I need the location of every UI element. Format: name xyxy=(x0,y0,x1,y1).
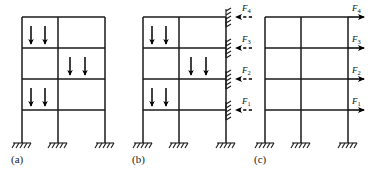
base-support-b2 xyxy=(169,143,188,148)
frame-a-members xyxy=(22,17,105,143)
panel-c xyxy=(255,17,364,148)
base-support-b3 xyxy=(216,143,235,148)
panel-b xyxy=(133,8,252,148)
frame-c-members xyxy=(265,17,348,143)
frame-a-base-supports xyxy=(12,143,114,148)
structural-frame-figure xyxy=(0,0,370,179)
force-label-c-f2: F2 xyxy=(352,65,361,75)
force-label-b-f3: F3 xyxy=(242,34,251,44)
panel-caption-b: (b) xyxy=(132,153,145,165)
frame-c-base-supports xyxy=(255,143,357,148)
frame-b-base-supports xyxy=(133,143,235,148)
force-label-c-f3: F3 xyxy=(352,34,361,44)
force-label-b-f1: F1 xyxy=(242,96,251,106)
force-label-b-f4: F4 xyxy=(242,3,251,13)
force-label-c-f1: F1 xyxy=(352,96,361,106)
frame-b-members xyxy=(143,17,226,143)
panel-caption-c: (c) xyxy=(254,153,266,165)
base-support-a1 xyxy=(12,143,31,148)
base-support-c2 xyxy=(291,143,310,148)
base-support-a3 xyxy=(95,143,114,148)
base-support-c3 xyxy=(338,143,357,148)
panel-caption-a: (a) xyxy=(11,153,23,165)
base-support-a2 xyxy=(48,143,67,148)
force-label-c-f4: F4 xyxy=(352,3,361,13)
panel-a xyxy=(12,17,114,148)
base-support-b1 xyxy=(133,143,152,148)
force-label-b-f2: F2 xyxy=(242,65,251,75)
base-support-c1 xyxy=(255,143,274,148)
